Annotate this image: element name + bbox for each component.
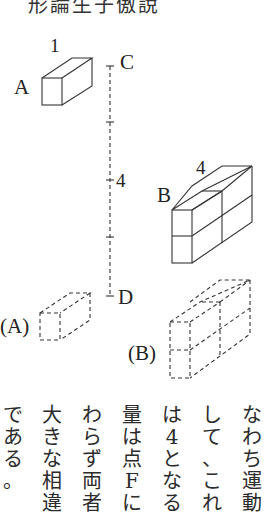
text-char: で <box>0 404 26 426</box>
text-char: F <box>119 470 145 492</box>
box-a-ghost <box>40 293 90 340</box>
box-b-solid <box>172 166 252 263</box>
ghost-b-label: (B) <box>128 343 156 364</box>
text-char: 点 <box>119 448 145 470</box>
text-char: こ <box>199 470 225 492</box>
text-column-3: は4となる <box>159 404 185 514</box>
text-char: な <box>39 448 65 470</box>
text-char: 動 <box>239 492 265 514</box>
text-char: 量 <box>119 404 145 426</box>
text-char: 者 <box>79 492 105 514</box>
text-char: る <box>0 448 26 470</box>
text-char: き <box>39 426 65 448</box>
text-char: は <box>159 404 185 426</box>
text-char: 運 <box>239 470 265 492</box>
box-b-length-label: 4 <box>196 158 206 177</box>
text-column-6: 大きな相違 <box>39 404 65 514</box>
text-column-2: して、これ <box>199 404 225 514</box>
text-char: あ <box>0 426 26 448</box>
text-char: る <box>159 492 185 514</box>
box-a-solid <box>42 58 92 105</box>
text-char: な <box>159 470 185 492</box>
text-char: れ <box>199 492 225 514</box>
text-char: 相 <box>39 470 65 492</box>
text-char: て <box>199 426 225 448</box>
axis-value-label: 4 <box>116 171 126 190</box>
text-char: な <box>239 404 265 426</box>
text-char: し <box>199 404 225 426</box>
text-char: ち <box>239 448 265 470</box>
text-char: 大 <box>39 404 65 426</box>
text-column-5: わらず両者 <box>79 404 105 514</box>
ghost-a-label: (A) <box>0 316 29 337</box>
axis-bottom-label-d: D <box>118 287 133 308</box>
text-char: ず <box>79 448 105 470</box>
text-char: 4 <box>159 426 185 448</box>
text-char: と <box>159 448 185 470</box>
axis-top-label-c: C <box>120 52 134 73</box>
text-char: ら <box>79 426 105 448</box>
text-char: に <box>119 492 145 514</box>
text-char: 、 <box>199 448 225 470</box>
text-char: わ <box>239 426 265 448</box>
text-char: 両 <box>79 470 105 492</box>
box-a-length-label: 1 <box>50 36 60 55</box>
box-b-ghost <box>170 280 250 378</box>
box-b-label: B <box>157 185 171 206</box>
box-a-label: A <box>14 77 29 98</box>
axis-cd <box>106 66 114 296</box>
text-column-7: である。 <box>0 404 26 492</box>
text-char: は <box>119 426 145 448</box>
text-column-1: なわち運動 <box>239 404 265 514</box>
text-char: 違 <box>39 492 65 514</box>
text-column-4: 量は点Fに <box>119 404 145 514</box>
text-char: 。 <box>0 470 26 492</box>
text-char: わ <box>79 404 105 426</box>
